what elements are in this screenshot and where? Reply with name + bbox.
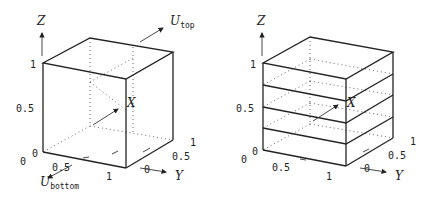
hidden-edge bbox=[310, 124, 393, 138]
flow-arrow-icon bbox=[83, 157, 89, 158]
x-tick: 1 bbox=[106, 171, 112, 182]
y-tick: 0 bbox=[144, 164, 150, 175]
z-axis-label: Z bbox=[36, 14, 46, 28]
z-tick: 0 bbox=[252, 146, 258, 157]
y-axis-label: Y bbox=[395, 169, 404, 183]
x-tick: 0 bbox=[241, 154, 247, 165]
edge bbox=[346, 138, 393, 166]
flow-arrow-icon bbox=[300, 159, 306, 160]
hidden-edge bbox=[310, 81, 393, 95]
z-tick: 1 bbox=[30, 59, 36, 70]
layer-boundary bbox=[263, 117, 393, 144]
y-tick: 0 bbox=[364, 163, 370, 174]
hidden-edge bbox=[90, 82, 126, 110]
flow-arrow-icon bbox=[112, 151, 118, 154]
top-face bbox=[263, 37, 393, 79]
x-tick: 0.5 bbox=[52, 162, 70, 173]
z-tick: 1 bbox=[250, 59, 256, 70]
y-axis-label: Y bbox=[175, 169, 184, 183]
top-face bbox=[43, 38, 173, 79]
z-tick: 0.5 bbox=[236, 103, 254, 114]
layer-boundary bbox=[263, 74, 393, 101]
y-tick: 0.5 bbox=[172, 151, 190, 162]
diagram-canvas: Z X Y Utop Ubottom 1 0.5 0 bbox=[0, 0, 430, 197]
u-bottom-label: Ubottom bbox=[40, 175, 79, 191]
x-axis-label: X bbox=[346, 96, 356, 110]
u-top-arrow-icon bbox=[140, 28, 163, 42]
x-axis-arrow-icon bbox=[93, 109, 118, 125]
z-tick: 0 bbox=[32, 148, 38, 159]
z-tick: 0.5 bbox=[16, 103, 34, 114]
flow-arrow-icon bbox=[143, 148, 150, 152]
x-tick: 0.5 bbox=[272, 162, 290, 173]
hidden-edge bbox=[310, 59, 393, 74]
z-axis-label: Z bbox=[256, 14, 266, 28]
x-tick: 1 bbox=[326, 171, 332, 182]
hidden-edge bbox=[90, 126, 173, 140]
hidden-edge bbox=[43, 126, 90, 152]
hidden-edge bbox=[263, 59, 310, 85]
y-tick: 1 bbox=[190, 137, 196, 148]
y-tick: 0.5 bbox=[388, 150, 406, 161]
layer-boundary bbox=[263, 95, 393, 123]
flow-arrow-icon bbox=[363, 149, 369, 152]
y-tick: 1 bbox=[410, 136, 416, 147]
x-axis-label: X bbox=[126, 96, 136, 110]
right-cube-panel: Z X Y 1 0.5 0 0 0.5 bbox=[236, 14, 416, 183]
hidden-edge bbox=[263, 124, 310, 150]
hidden-edge bbox=[263, 81, 310, 107]
x-tick: 0 bbox=[20, 156, 26, 167]
hidden-edge bbox=[263, 103, 310, 128]
left-cube-panel: Z X Y Utop Ubottom 1 0.5 0 bbox=[16, 14, 196, 191]
u-top-label: Utop bbox=[170, 14, 195, 30]
